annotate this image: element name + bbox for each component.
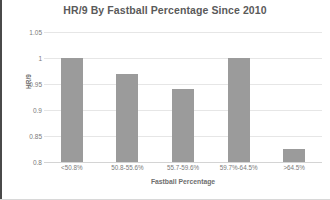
y-tick-label: 1 (20, 55, 42, 62)
bar-slot (155, 32, 211, 162)
x-tick-label: >64.5% (266, 164, 322, 171)
y-tick-label: 0.9 (20, 107, 42, 114)
left-edge-border (0, 0, 2, 200)
x-tick-label: 59.7%-64.5% (211, 164, 267, 171)
x-axis-title: Fastball Percentage (44, 178, 322, 185)
y-tick-label: 0.85 (20, 133, 42, 140)
bar-slot (266, 32, 322, 162)
y-tick-label: 0.8 (20, 159, 42, 166)
axis-baseline (44, 162, 322, 163)
x-tick-label: <50.8% (44, 164, 100, 171)
bar-series (44, 32, 322, 162)
bar-slot (211, 32, 267, 162)
bar[interactable] (228, 58, 250, 162)
y-axis-tick-labels: 1.05 1 0.95 0.9 0.85 0.8 (16, 32, 42, 162)
chart-container: HR/9 By Fastball Percentage Since 2010 H… (0, 0, 330, 200)
bar-slot (44, 32, 100, 162)
bar[interactable] (61, 58, 83, 162)
x-tick-label: 55.7-59.6% (155, 164, 211, 171)
bar[interactable] (116, 74, 138, 162)
y-tick-label: 1.05 (20, 29, 42, 36)
y-tick-label: 0.95 (20, 81, 42, 88)
x-tick-label: 50.8-55.6% (100, 164, 156, 171)
bar[interactable] (283, 149, 305, 162)
bottom-edge-border (0, 199, 330, 200)
x-axis-tick-labels: <50.8% 50.8-55.6% 55.7-59.6% 59.7%-64.5%… (44, 164, 322, 171)
chart-title: HR/9 By Fastball Percentage Since 2010 (0, 4, 330, 16)
bar-slot (100, 32, 156, 162)
bar[interactable] (172, 89, 194, 162)
